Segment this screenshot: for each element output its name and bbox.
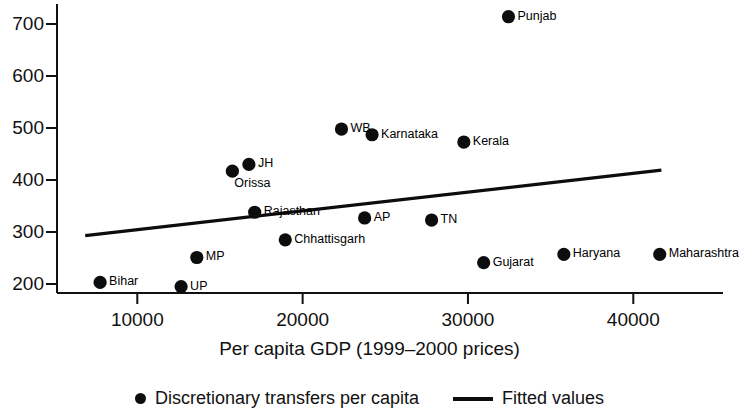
data-point-label: Gujarat bbox=[493, 256, 534, 269]
data-point-label: Bihar bbox=[109, 275, 138, 288]
x-axis-title: Per capita GDP (1999–2000 prices) bbox=[0, 338, 739, 360]
data-point-label: Kerala bbox=[473, 135, 509, 148]
line-marker-icon bbox=[453, 397, 493, 401]
legend-item-discretionary-transfers: Discretionary transfers per capita bbox=[135, 388, 419, 409]
data-point-label: Maharashtra bbox=[669, 247, 739, 260]
data-point-label: Karnataka bbox=[381, 128, 438, 141]
dot-marker-icon bbox=[135, 393, 146, 404]
data-point-label: WB bbox=[350, 122, 370, 135]
data-point-label: TN bbox=[441, 213, 458, 226]
data-point-label: UP bbox=[190, 280, 207, 293]
scatter-plot-figure: 200300400500600700 10000200003000040000 … bbox=[0, 0, 739, 419]
data-point-label: Rajasthan bbox=[264, 205, 320, 218]
legend-item-fitted-values: Fitted values bbox=[453, 388, 604, 409]
data-point-label: Orissa bbox=[234, 177, 270, 190]
data-point-label: Chhattisgarh bbox=[294, 233, 365, 246]
legend-label-discretionary-transfers: Discretionary transfers per capita bbox=[155, 388, 419, 409]
data-point-label: AP bbox=[374, 211, 391, 224]
data-point-label: JH bbox=[258, 157, 273, 170]
legend-label-fitted-values: Fitted values bbox=[502, 388, 604, 409]
chart-legend: Discretionary transfers per capita Fitte… bbox=[0, 388, 739, 409]
data-point-label: Haryana bbox=[573, 247, 620, 260]
data-point-label: Punjab bbox=[517, 10, 556, 23]
data-point-label: MP bbox=[206, 250, 225, 263]
